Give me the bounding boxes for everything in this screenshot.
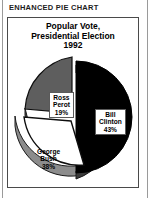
pie-label-clinton-line-1: Bill: [99, 111, 122, 118]
chart-frame: Popular Vote, Presidential Election 1992…: [7, 17, 139, 188]
pie-label-perot-line-1: Ross: [53, 94, 70, 101]
section-kicker: Enhanced pie chart: [9, 3, 99, 12]
chart-title: Popular Vote, Presidential Election 1992: [8, 22, 138, 51]
pie-label-clinton-value: 43%: [99, 126, 122, 133]
pie-label-clinton-line-2: Clinton: [99, 118, 122, 125]
pie-label-bush: George Bush 38%: [37, 148, 60, 170]
pie-label-bush-value: 38%: [37, 163, 60, 170]
pie-label-bush-line-2: Bush: [37, 155, 60, 162]
chart-title-line-3: 1992: [8, 41, 138, 51]
pie-label-perot-value: 19%: [53, 109, 70, 116]
page-margin-rule-right: [147, 0, 148, 198]
pie-label-perot: Ross Perot 19%: [49, 92, 74, 118]
pie-label-bush-line-1: George: [37, 148, 60, 155]
pie-label-perot-line-2: Perot: [53, 101, 70, 108]
pie-label-clinton: Bill Clinton 43%: [95, 109, 126, 135]
page-margin-rule-left: [2, 0, 3, 198]
